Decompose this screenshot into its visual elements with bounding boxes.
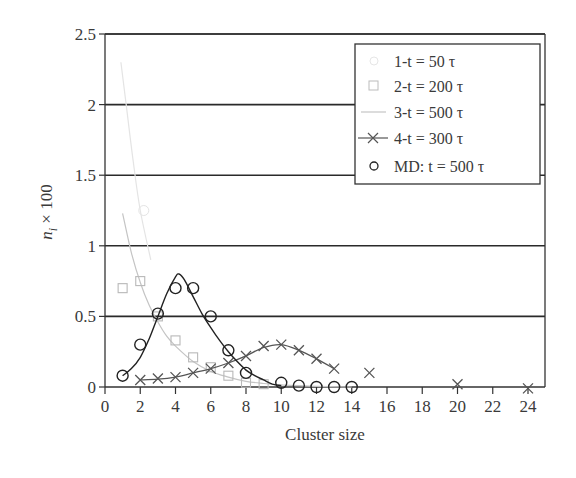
square-marker [118, 284, 127, 293]
y-axis-title: ni × 100 [37, 184, 60, 239]
x-marker [294, 345, 304, 355]
svg-text:1-t = 50 τ: 1-t = 50 τ [394, 53, 456, 70]
svg-text:4-t = 300 τ: 4-t = 300 τ [394, 130, 464, 147]
svg-text:2-t = 200 τ: 2-t = 200 τ [394, 78, 464, 95]
y-axis-ticks: 00.511.522.5 [75, 25, 105, 397]
x-axis-title: Cluster size [285, 425, 365, 444]
circle-marker [241, 367, 252, 378]
x-marker [364, 368, 374, 378]
x-marker [241, 351, 251, 361]
circle-marker [276, 377, 287, 388]
circle-marker [152, 308, 163, 319]
circle-marker [346, 382, 357, 393]
y-tick-label: 2 [88, 96, 97, 115]
x-marker [223, 358, 233, 368]
md-fit-curve [123, 274, 282, 386]
circle-marker [329, 382, 340, 393]
series-md-t500 [117, 283, 357, 393]
x-tick-label: 2 [136, 397, 145, 416]
cluster-size-chart: 00.511.522.5 024681012141618202224 Clust… [0, 0, 576, 478]
x-tick-label: 16 [379, 397, 396, 416]
x-tick-label: 0 [101, 397, 110, 416]
x-tick-label: 18 [414, 397, 431, 416]
y-axis-title-suffix: × 100 [37, 184, 56, 228]
circle-marker [188, 283, 199, 294]
x-tick-label: 14 [343, 397, 361, 416]
circle-marker [117, 370, 128, 381]
x-marker [329, 364, 339, 374]
x-tick-label: 4 [171, 397, 180, 416]
circle-marker [311, 382, 322, 393]
y-tick-label: 1 [88, 237, 97, 256]
circle-marker [293, 380, 304, 391]
x-tick-label: 6 [207, 397, 216, 416]
x-tick-label: 12 [308, 397, 325, 416]
legend: 1-t = 50 τ 2-t = 200 τ 3-t = 500 τ 4-t =… [355, 44, 540, 184]
y-tick-label: 0.5 [75, 307, 96, 326]
circle-marker [170, 283, 181, 294]
square-marker [242, 378, 251, 387]
y-tick-label: 0 [88, 378, 97, 397]
y-tick-label: 1.5 [75, 166, 96, 185]
x-marker [188, 368, 198, 378]
svg-text:MD: t = 500 τ: MD: t = 500 τ [394, 158, 485, 175]
x-tick-label: 10 [273, 397, 290, 416]
svg-text:3-t = 500 τ: 3-t = 500 τ [394, 104, 464, 121]
circle-marker [205, 311, 216, 322]
svg-text:ni × 100: ni × 100 [37, 184, 60, 239]
x-tick-label: 22 [484, 397, 501, 416]
circle-marker [223, 345, 234, 356]
series-1-t50 [121, 62, 151, 260]
x-marker [312, 354, 322, 364]
y-axis-title-main: n [37, 231, 56, 240]
y-tick-label: 2.5 [75, 25, 96, 44]
x-tick-label: 20 [449, 397, 466, 416]
square-marker [189, 353, 198, 362]
circle-marker [135, 339, 146, 350]
x-tick-label: 24 [520, 397, 538, 416]
x-tick-label: 8 [242, 397, 251, 416]
